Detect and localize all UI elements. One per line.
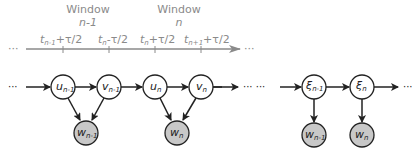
node-xi-cur: ξn: [350, 75, 374, 99]
tick-label-3: tn+τ/2: [140, 33, 175, 47]
right-model: ··· ··· ··· ξn-1 ξn wn-1 wn: [213, 75, 413, 147]
node-w-prev-right: wn-1: [302, 123, 326, 147]
timeline-ellipsis-right: ···: [244, 42, 255, 55]
timeline: Window n-1 Window n tn-1+τ/2 tn-τ/2 tn+τ…: [8, 3, 255, 55]
node-v-cur: vn: [189, 75, 213, 99]
node-w-prev: wn-1: [74, 121, 98, 145]
left-model: ··· un-1 vn-1 un vn wn-1: [8, 75, 222, 145]
window-label-prev: Window: [66, 3, 109, 16]
tick-label-4: tn+1+τ/2: [184, 33, 230, 47]
right-model-ellipsis-right: ···: [403, 81, 413, 92]
node-w-cur-right: wn: [350, 123, 374, 147]
left-model-ellipsis: ···: [8, 81, 18, 92]
node-u-cur: un: [143, 75, 167, 99]
edge-u-prev-w-prev: [68, 98, 80, 120]
node-v-prev: vn-1: [97, 75, 121, 99]
right-model-ellipsis-left: ··· ···: [243, 81, 265, 92]
diagram-canvas: Window n-1 Window n tn-1+τ/2 tn-τ/2 tn+τ…: [0, 0, 420, 154]
window-index-prev: n-1: [79, 16, 97, 29]
node-w-cur: wn: [165, 121, 189, 145]
tick-label-2: tn-τ/2: [98, 33, 128, 47]
edge-v-cur-w-cur: [183, 98, 196, 120]
node-xi-prev: ξn-1: [302, 75, 326, 99]
tick-label-1: tn-1+τ/2: [40, 33, 82, 47]
window-index-cur: n: [176, 16, 183, 29]
node-u-prev: un-1: [51, 75, 75, 99]
timeline-ellipsis-left: ···: [8, 42, 19, 55]
edge-v-prev-w-prev: [92, 98, 104, 120]
window-label-cur: Window: [157, 3, 200, 16]
edge-u-cur-w-cur: [160, 98, 171, 120]
